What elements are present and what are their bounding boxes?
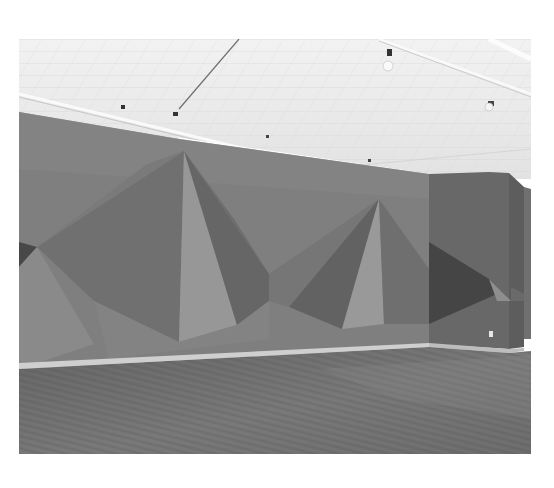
wall-drawing-scene	[19, 39, 531, 454]
gallery-photo	[19, 39, 531, 454]
